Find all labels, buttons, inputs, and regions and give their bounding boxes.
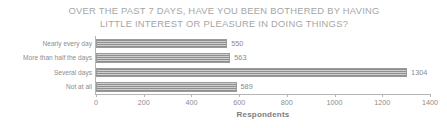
x-axis-tick-label: 1200 bbox=[374, 98, 390, 108]
bar bbox=[96, 68, 407, 78]
x-axis-tick-label: 0 bbox=[94, 98, 98, 108]
bar-row: More than half the days563 bbox=[96, 51, 430, 66]
x-axis-tick bbox=[96, 94, 97, 97]
bar-value-label: 589 bbox=[241, 81, 253, 92]
x-axis-tick-label: 600 bbox=[233, 98, 245, 108]
x-axis-tick-label: 400 bbox=[185, 98, 197, 108]
plot-area: Nearly every day550More than half the da… bbox=[96, 36, 430, 94]
bar-row: Nearly every day550 bbox=[96, 36, 430, 51]
x-axis-tick-label: 200 bbox=[138, 98, 150, 108]
bar-chart: OVER THE PAST 7 DAYS, HAVE YOU BEEN BOTH… bbox=[0, 0, 447, 128]
bar bbox=[96, 39, 227, 49]
x-axis-tick bbox=[191, 94, 192, 97]
category-label: Several days bbox=[54, 67, 92, 78]
x-axis-tick bbox=[144, 94, 145, 97]
x-axis-title: Respondents bbox=[96, 110, 430, 119]
bar bbox=[96, 53, 230, 63]
x-axis-tick-label: 1400 bbox=[422, 98, 438, 108]
category-label: More than half the days bbox=[23, 52, 92, 63]
x-axis-tick bbox=[335, 94, 336, 97]
x-axis-tick-label: 1000 bbox=[327, 98, 343, 108]
x-axis-tick bbox=[430, 94, 431, 97]
bar-row: Several days1304 bbox=[96, 65, 430, 80]
x-axis-line bbox=[95, 94, 430, 95]
bar-row: Not at all589 bbox=[96, 80, 430, 95]
chart-title: OVER THE PAST 7 DAYS, HAVE YOU BEEN BOTH… bbox=[28, 5, 420, 30]
category-label: Nearly every day bbox=[43, 38, 92, 49]
bar-value-label: 1304 bbox=[411, 67, 427, 78]
x-axis-tick-label: 800 bbox=[281, 98, 293, 108]
bar bbox=[96, 82, 237, 92]
category-label: Not at all bbox=[66, 81, 92, 92]
bar-value-label: 563 bbox=[234, 52, 246, 63]
x-axis-tick bbox=[239, 94, 240, 97]
x-axis-tick bbox=[287, 94, 288, 97]
x-axis-tick bbox=[382, 94, 383, 97]
bar-value-label: 550 bbox=[231, 38, 243, 49]
